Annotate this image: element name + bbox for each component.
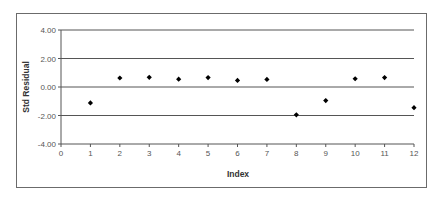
x-tick-label: 3: [147, 149, 152, 158]
data-point-marker: [88, 100, 93, 105]
gridlines: [61, 30, 414, 116]
data-point-marker: [176, 77, 181, 82]
data-point-marker: [353, 76, 358, 81]
x-tick-label: 7: [265, 149, 270, 158]
data-point-marker: [235, 78, 240, 83]
x-tick-label: 2: [118, 149, 123, 158]
x-tick-label: 6: [235, 149, 240, 158]
data-point-marker: [205, 75, 210, 80]
y-tick-label: -2.00: [38, 112, 57, 121]
y-tick-label: -4.00: [38, 140, 57, 149]
x-tick-label: 12: [410, 149, 419, 158]
data-point-marker: [411, 105, 416, 110]
x-tick-label: 0: [59, 149, 64, 158]
x-tick-label: 9: [324, 149, 329, 158]
x-tick-label: 4: [176, 149, 181, 158]
data-point-marker: [323, 98, 328, 103]
x-axis-ticks: 0123456789101112: [59, 144, 419, 158]
y-tick-label: 2.00: [40, 55, 56, 64]
data-points: [88, 75, 417, 118]
scatter-chart: 4.002.000.00-2.00-4.00 0123456789101112 …: [0, 0, 446, 201]
x-tick-label: 5: [206, 149, 211, 158]
data-point-marker: [117, 75, 122, 80]
data-point-marker: [382, 75, 387, 80]
x-tick-label: 11: [380, 149, 389, 158]
y-axis-title: Std Residual: [21, 61, 31, 112]
y-tick-label: 4.00: [40, 26, 56, 35]
x-tick-label: 1: [88, 149, 93, 158]
data-point-marker: [264, 77, 269, 82]
data-point-marker: [294, 112, 299, 117]
x-axis-title: Index: [227, 169, 249, 179]
data-point-marker: [147, 75, 152, 80]
x-tick-label: 8: [294, 149, 299, 158]
y-tick-label: 0.00: [40, 83, 56, 92]
x-tick-label: 10: [351, 149, 360, 158]
y-axis-ticks: 4.002.000.00-2.00-4.00: [38, 26, 61, 149]
